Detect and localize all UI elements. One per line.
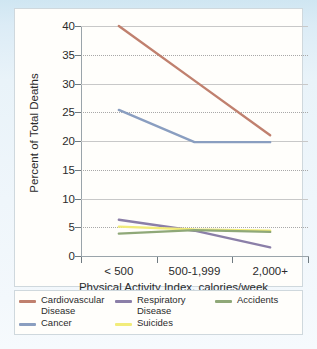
y-tick-label-35: 35 (62, 49, 75, 61)
legend-label: Cardiovascular Disease (41, 295, 104, 316)
legend-swatch-icon (115, 323, 132, 326)
legend-swatch-icon (115, 300, 132, 303)
x-tick-2 (232, 257, 233, 263)
legend: Cardiovascular DiseaseRespiratory Diseas… (15, 291, 302, 334)
x-tick-label-0: < 500 (104, 265, 133, 277)
y-tick-label-40: 40 (62, 20, 75, 32)
legend-item[interactable]: Accidents (215, 295, 278, 306)
legend-item[interactable]: Suicides (115, 318, 173, 329)
x-tick-3 (308, 257, 309, 263)
x-tick-label-2: 2,000+ (252, 265, 288, 277)
x-tick-1 (157, 257, 158, 263)
y-axis-labels: 0510152025303540 (41, 26, 75, 257)
y-tick-label-25: 25 (62, 106, 75, 118)
series-lines (81, 26, 308, 256)
legend-swatch-icon (19, 323, 36, 326)
series-line-cancer (119, 110, 270, 142)
legend-label: Accidents (237, 295, 278, 306)
legend-label: Cancer (41, 318, 72, 329)
plot-area (81, 26, 308, 256)
plot-card: Percent of Total Deaths 0510152025303540… (14, 8, 303, 287)
y-tick-label-15: 15 (62, 164, 75, 176)
y-tick-label-10: 10 (62, 193, 75, 205)
legend-item[interactable]: Cardiovascular Disease (19, 295, 104, 316)
legend-swatch-icon (19, 300, 36, 303)
legend-item[interactable]: Cancer (19, 318, 72, 329)
x-axis-labels: < 500500-1,9992,000+ (75, 265, 315, 281)
legend-card: Cardiovascular DiseaseRespiratory Diseas… (14, 290, 303, 335)
legend-label: Respiratory Disease (137, 295, 186, 316)
y-axis-title: Percent of Total Deaths (28, 18, 40, 248)
legend-label: Suicides (137, 318, 173, 329)
x-axis-ticks (81, 257, 309, 264)
x-tick-label-1: 500-1,999 (169, 265, 221, 277)
y-tick-label-20: 20 (62, 135, 75, 147)
x-tick-0 (81, 257, 82, 263)
chart-page: Percent of Total Deaths 0510152025303540… (0, 0, 317, 349)
legend-swatch-icon (215, 300, 232, 303)
legend-item[interactable]: Respiratory Disease (115, 295, 186, 316)
y-tick-label-30: 30 (62, 78, 75, 90)
